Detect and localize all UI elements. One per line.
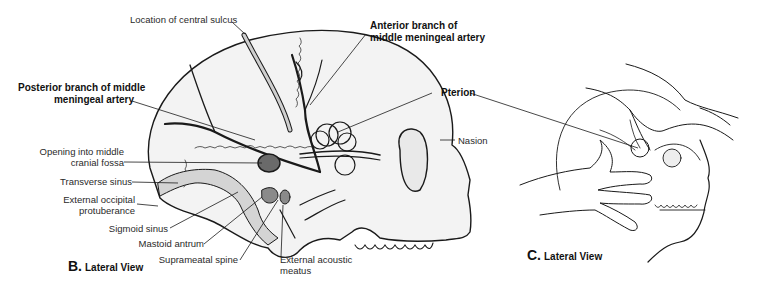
upper-hand <box>586 64 738 150</box>
lower-hand <box>520 140 652 231</box>
label-nasion: Nasion <box>458 135 488 146</box>
pterion-leader-c <box>470 93 638 148</box>
teeth <box>355 243 433 249</box>
label-ext-acoustic-line2: meatus <box>280 265 311 276</box>
label-opening-line2: cranial fossa <box>20 157 124 168</box>
label-central-sulcus: Location of central sulcus <box>130 14 237 25</box>
label-ext-occipital-line2: protuberance <box>20 205 135 216</box>
external-acoustic-meatus <box>280 190 290 204</box>
caption-panel-b: B.Lateral View <box>68 258 143 274</box>
caption-b-letter: B. <box>68 258 82 274</box>
orbit-c <box>663 149 681 167</box>
caption-c-letter: C. <box>527 247 541 263</box>
cranium-outline-c <box>556 90 680 190</box>
label-anterior-branch-line1: Anterior branch of <box>370 20 457 31</box>
label-posterior-branch-line1: Posterior branch of middle <box>18 82 134 93</box>
label-opening-line1: Opening into middle <box>20 146 124 157</box>
label-ext-acoustic-line1: External acoustic <box>280 254 352 265</box>
teeth-c <box>655 205 697 208</box>
label-pterion: Pterion <box>441 87 475 98</box>
label-anterior-branch-line2: middle meningeal artery <box>370 32 485 43</box>
skull-lateral-view <box>148 30 471 257</box>
label-sigmoid-sinus: Sigmoid sinus <box>60 223 168 234</box>
label-posterior-branch-line2: meningeal artery <box>18 94 134 105</box>
label-ext-occipital-line1: External occipital <box>20 194 135 205</box>
label-transverse-sinus: Transverse sinus <box>20 176 132 187</box>
label-mastoid-antrum: Mastoid antrum <box>90 238 204 249</box>
caption-b-text: Lateral View <box>85 262 143 273</box>
caption-c-text: Lateral View <box>544 251 602 262</box>
caption-panel-c: C.Lateral View <box>527 247 602 263</box>
mastoid-antrum <box>262 188 278 204</box>
head-with-hands <box>520 64 738 262</box>
